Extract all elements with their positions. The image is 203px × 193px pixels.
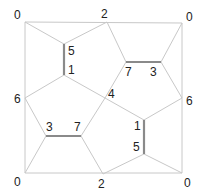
vertex-label: 0 — [14, 175, 21, 189]
edge-center-rv_top — [105, 98, 144, 120]
vertex-label: 0 — [186, 10, 193, 24]
edge-top_left-top_right — [25, 22, 182, 23]
vertex-label: 2 — [98, 177, 105, 191]
vertex-label: 3 — [46, 120, 53, 134]
edge-top_mid-tr_left — [107, 22, 126, 62]
vertex-label: 1 — [68, 63, 75, 77]
vertex-label: 7 — [125, 65, 132, 79]
vertex-label: 0 — [14, 8, 21, 22]
vertex-label: 6 — [14, 92, 21, 106]
edge-right_mid-rv_top — [144, 98, 182, 120]
edge-bl_left-bottom_left — [25, 136, 46, 173]
vertex-label: 3 — [150, 65, 157, 79]
edge-lv_top-top_mid — [64, 22, 107, 44]
edge-lv_bottom-left_mid — [25, 75, 64, 98]
edge-bl_right-bottom_mid — [81, 136, 103, 174]
edge-rv_bottom-bottom_mid — [103, 154, 144, 174]
vertex-label: 7 — [74, 120, 81, 134]
edge-lv_bottom-center — [64, 75, 105, 98]
vertex-label: 5 — [133, 140, 140, 154]
vertex-label: 5 — [68, 44, 75, 58]
edge-rv_bottom-bottom_right — [144, 154, 182, 173]
edge-top_left-lv_top — [25, 22, 64, 44]
thin-edges — [25, 22, 182, 174]
vertex-label: 0 — [184, 176, 191, 190]
edge-center-bl_right — [81, 98, 105, 136]
vertex-label: 1 — [134, 119, 141, 133]
vertex-label: 4 — [108, 87, 115, 101]
vertex-label: 2 — [101, 7, 108, 21]
vertex-label: 6 — [186, 94, 193, 108]
bold-edges — [46, 44, 161, 154]
vertex-labels: 02051736463715020 — [14, 7, 193, 191]
edge-tr_right-right_mid — [161, 62, 182, 98]
edge-tr_right-top_right — [161, 23, 182, 62]
pentagon-tiling-diagram: 02051736463715020 — [0, 0, 203, 193]
edge-left_mid-bl_left — [25, 98, 46, 136]
